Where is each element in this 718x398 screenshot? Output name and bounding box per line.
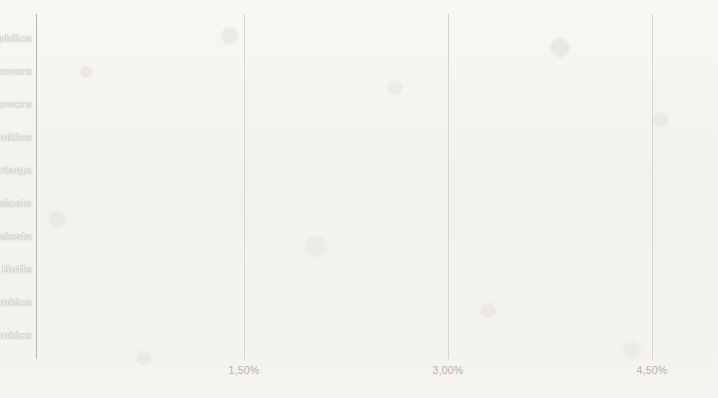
bar-row[interactable]: Mobile Enthusiasts: [37, 191, 445, 214]
bar-label: Travel Buffs: [0, 263, 32, 275]
bar-row[interactable]: Social Media Enthusiasts: [37, 224, 438, 247]
x-axis-tick-label-1: 1,50%: [229, 364, 260, 376]
bar-row[interactable]: News Junkies/Entertainment & Celebrity N…: [37, 125, 502, 148]
gridline-3: [652, 14, 653, 359]
x-axis-tick-label-2: 3,00%: [433, 364, 464, 376]
bar-label: News Junkies/Political News Junkies: [0, 296, 32, 308]
bar-row[interactable]: News Junkies: [37, 323, 415, 346]
bar-label: News Junkies: [0, 329, 32, 341]
bar-label: Movie Lovers: [0, 65, 32, 77]
bar-label: Mobile Enthusiasts: [0, 197, 32, 209]
bar-label: Social Media Enthusiasts: [0, 230, 32, 242]
bar-label: Shutterbugs: [0, 164, 32, 176]
bar-row[interactable]: Technophiles: [37, 26, 694, 49]
x-axis-tick-label-3: 4,50%: [637, 364, 668, 376]
bar-row[interactable]: News Junkies/Political News Junkies: [37, 290, 426, 313]
bar-label: TV Lovers: [0, 98, 32, 110]
bar-row[interactable]: Movie Lovers: [37, 59, 594, 82]
bar-label: Technophiles: [0, 32, 32, 44]
bar-row[interactable]: Shutterbugs: [37, 158, 498, 181]
bar-chart-plot-area: 1,50% 3,00% 4,50% Technophiles Movie Lov…: [0, 0, 718, 398]
bar-row[interactable]: TV Lovers: [37, 92, 542, 115]
bar-row[interactable]: Travel Buffs: [37, 257, 434, 280]
chart-page: 1,50% 3,00% 4,50% Technophiles Movie Lov…: [0, 0, 718, 398]
bar-label: News Junkies/Entertainment & Celebrity N…: [0, 131, 32, 143]
